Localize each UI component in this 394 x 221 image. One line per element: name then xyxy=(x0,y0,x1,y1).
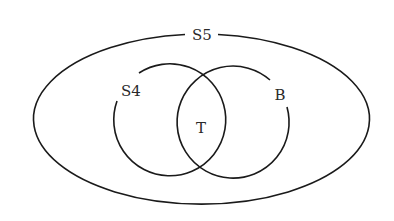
label-B: B xyxy=(274,86,285,104)
left-circle-S4 xyxy=(114,64,226,176)
label-T-intersection: T xyxy=(196,119,206,137)
venn-svg: S5 S4 B T xyxy=(0,0,394,221)
label-S4: S4 xyxy=(121,82,141,100)
venn-diagram: S5 S4 B T xyxy=(0,0,394,221)
label-S5: S5 xyxy=(192,26,212,44)
right-circle-B xyxy=(177,66,289,178)
